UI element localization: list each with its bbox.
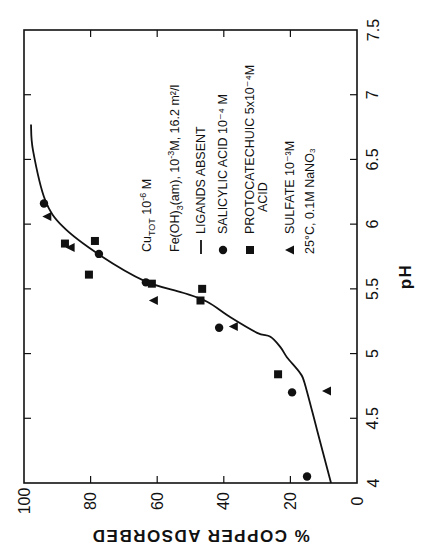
circle-data-point [288,388,296,396]
legend-label: LIGANDS ABSENT [194,126,208,234]
ph-tick-label: 4 [365,478,382,487]
percent-tick-label: 60 [149,492,166,510]
percent-tick-label: 40 [215,492,232,510]
legend-square-symbol [246,246,254,254]
ph-tick-label: 5 [365,349,382,358]
circle-data-point [95,250,103,258]
circle-data-point [303,472,311,480]
ph-tick-label: 6 [365,220,382,229]
chart-background [0,0,425,557]
legend-entry: SALICYLIC ACID 10⁻⁴ M [216,94,230,254]
legend-circle-symbol [219,246,227,254]
legend-entry: LIGANDS ABSENT [194,126,208,254]
ph-tick-label: 7 [365,90,382,99]
square-data-point [198,285,206,293]
ph-tick-label: 5.5 [365,278,382,300]
square-data-point [274,370,282,378]
square-data-point [148,280,156,288]
percent-tick-label: 100 [16,488,33,515]
legend-label: SULFATE 10⁻³M [283,141,297,234]
percent-tick-label: 20 [282,492,299,510]
square-data-point [196,297,204,305]
legend-footer: 25°C, 0.1M NaNO₃ [303,148,317,254]
square-data-point [91,237,99,245]
y-axis-title: % COPPER ADSORBED [91,526,310,545]
legend-label-continued: ACID [256,182,270,212]
x-axis-title: pH [396,264,415,290]
legend-label: PROTOCATECHUIC 5x10⁻⁴M [243,65,257,234]
ph-tick-label: 4.5 [365,407,382,429]
circle-data-point [215,323,223,331]
chart-container: CuTOT 10-6 MFe(OH)3(am), 10-3M, 16.2 m²/… [0,0,425,557]
percent-tick-label: 80 [82,492,99,510]
square-data-point [85,271,93,279]
legend-label: SALICYLIC ACID 10⁻⁴ M [216,94,230,234]
circle-data-point [40,199,48,207]
ph-tick-label: 6.5 [365,148,382,170]
square-data-point [61,240,69,248]
copper-adsorption-chart: CuTOT 10-6 MFe(OH)3(am), 10-3M, 16.2 m²/… [0,0,425,557]
percent-tick-label: 0 [349,496,366,505]
ph-tick-label: 7.5 [365,19,382,41]
